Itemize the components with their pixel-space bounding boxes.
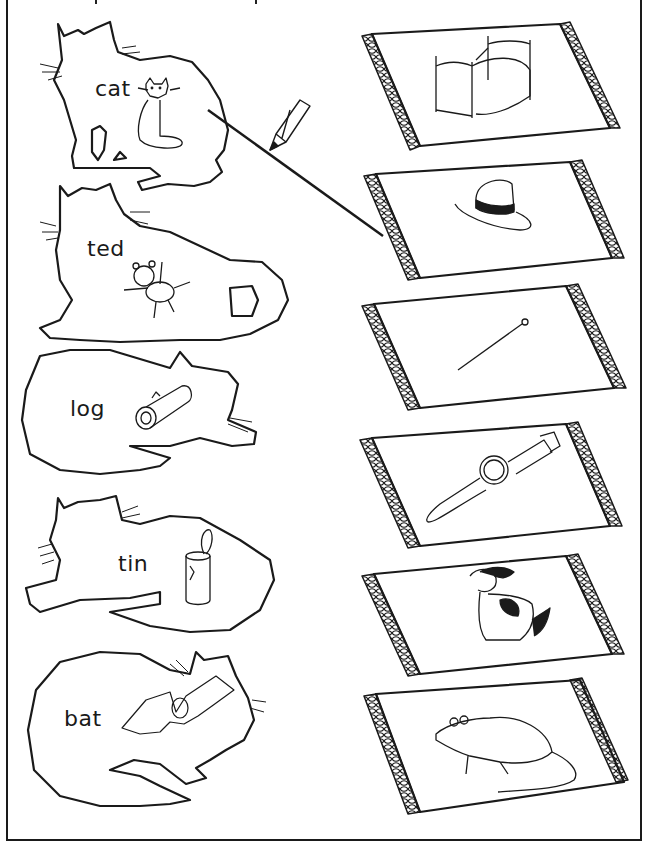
cat-outline-tin [26, 496, 274, 632]
teddy-bear-icon [124, 261, 190, 318]
word-cat: cat [95, 76, 131, 101]
word-bat: bat [64, 706, 102, 731]
cat-outline-log [22, 350, 256, 474]
whiskers [170, 660, 266, 712]
pencil-icon [270, 100, 310, 150]
bat-icon [122, 676, 234, 734]
cat-outline-cat [40, 22, 228, 190]
cat-outline-ted [40, 184, 288, 342]
tin-can-icon [186, 530, 212, 605]
rug-rat [364, 678, 628, 814]
rug-watch [360, 422, 622, 548]
rug-bed [362, 22, 620, 150]
rug-pin [362, 284, 626, 410]
word-tin: tin [118, 551, 148, 576]
cat-icon [138, 78, 182, 148]
log-icon [136, 386, 191, 429]
rug-hat [364, 160, 624, 280]
word-ted: ted [87, 236, 125, 261]
word-log: log [70, 396, 105, 421]
